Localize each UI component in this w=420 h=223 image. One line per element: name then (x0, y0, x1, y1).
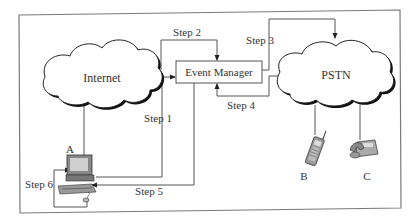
mobile-phone-b-label: B (300, 170, 307, 182)
step3-label: Step 3 (246, 34, 274, 46)
computer-icon (58, 155, 96, 202)
pstn-label: PSTN (321, 68, 351, 82)
step6-label: Step 6 (25, 178, 53, 190)
desk-phone-icon (350, 140, 378, 158)
step5-label: Step 5 (135, 185, 163, 197)
pstn-cloud: PSTN (277, 40, 395, 108)
step4-label: Step 4 (227, 99, 255, 111)
event-manager-diagram: Internet PSTN Event Manager A B (0, 0, 420, 223)
event-manager-label: Event Manager (185, 66, 253, 78)
event-manager-node: Event Manager (176, 61, 262, 83)
desk-phone-c-label: C (363, 170, 370, 182)
mobile-phone-icon (305, 128, 328, 167)
computer-a-label: A (66, 143, 74, 155)
internet-label: Internet (83, 71, 121, 85)
step2-label: Step 2 (173, 26, 201, 38)
internet-cloud: Internet (43, 40, 164, 110)
step1-label: Step 1 (144, 112, 172, 124)
